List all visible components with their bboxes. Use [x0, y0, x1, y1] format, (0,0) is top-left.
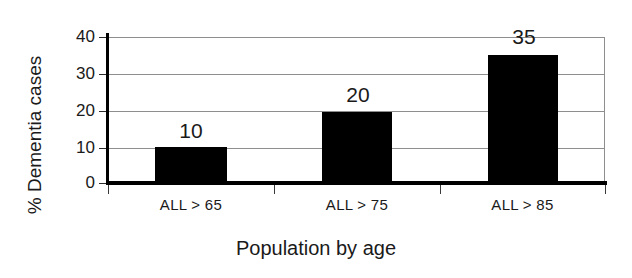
y-axis-title: % Dementia cases	[18, 40, 52, 230]
x-axis-title: Population by age	[0, 236, 632, 260]
category-label-2: ALL > 85	[440, 196, 605, 214]
category-label-1: ALL > 75	[274, 196, 440, 214]
y-tick-label-0-text: 0	[62, 174, 95, 191]
y-tick-label-0: 0	[62, 174, 95, 191]
y-tick-label-20: 20	[62, 102, 95, 119]
y-tick-label-30-text: 30	[62, 65, 95, 82]
category-label-0: ALL > 65	[108, 196, 274, 214]
x-axis-line	[106, 181, 607, 185]
bar-value-label-0: 10	[155, 120, 227, 141]
bar-all-over-65	[155, 147, 227, 183]
x-tick-mark-1	[274, 185, 275, 194]
x-tick-mark-3	[605, 185, 606, 194]
y-tick-label-30: 30	[62, 65, 95, 82]
y-tick-label-40: 40	[62, 28, 95, 45]
bar-value-label-2: 35	[488, 26, 560, 47]
y-tick-label-10: 10	[62, 139, 95, 156]
plot-right-border	[604, 37, 605, 183]
x-tick-mark-0	[108, 185, 109, 194]
bar-all-over-75	[322, 112, 392, 183]
x-tick-mark-2	[440, 185, 441, 194]
y-tick-label-10-text: 10	[62, 139, 95, 156]
y-axis-line	[106, 33, 109, 185]
bar-value-label-1: 20	[322, 84, 394, 105]
bar-all-over-85	[488, 55, 558, 183]
y-tick-label-20-text: 20	[62, 102, 95, 119]
bar-chart-figure: % Dementia cases 40 30 20 10 0 10 20 35	[0, 0, 632, 278]
y-tick-label-40-text: 40	[62, 28, 95, 45]
